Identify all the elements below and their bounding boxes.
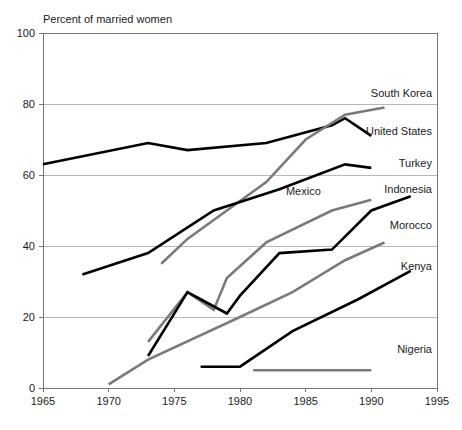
y-tick-label-40: 40 [23, 240, 35, 252]
x-tick-label-1965: 1965 [31, 395, 55, 407]
y-tick-label-80: 80 [23, 98, 35, 110]
series-line-united-states [43, 118, 371, 164]
x-tick-label-1970: 1970 [96, 395, 120, 407]
series-line-mexico [148, 200, 371, 342]
series-label-turkey: Turkey [399, 157, 433, 169]
x-tick-label-1975: 1975 [162, 395, 186, 407]
y-tick-label-20: 20 [23, 311, 35, 323]
x-tick-label-1985: 1985 [293, 395, 317, 407]
gridlines [43, 33, 437, 317]
plot-frame [43, 33, 437, 388]
chart-container: Percent of married women 020406080100 19… [0, 0, 462, 430]
series-label-mexico: Mexico [286, 185, 321, 197]
chart-title: Percent of married women [43, 13, 172, 25]
line-chart: Percent of married women 020406080100 19… [0, 0, 462, 430]
x-tick-label-1980: 1980 [228, 395, 252, 407]
series-line-indonesia [148, 196, 411, 356]
series-label-nigeria: Nigeria [397, 343, 433, 355]
series-label-south-korea: South Korea [371, 87, 433, 99]
y-axis-ticks: 020406080100 [17, 27, 43, 394]
y-tick-label-100: 100 [17, 27, 35, 39]
x-axis-ticks: 1965197019751980198519901995 [31, 388, 449, 407]
y-tick-label-60: 60 [23, 169, 35, 181]
series-line-turkey [82, 164, 371, 274]
series-label-indonesia: Indonesia [384, 183, 433, 195]
x-tick-label-1995: 1995 [425, 395, 449, 407]
series-label-kenya: Kenya [401, 260, 433, 272]
y-tick-label-0: 0 [29, 382, 35, 394]
series-label-united-states: United States [366, 125, 433, 137]
series-label-morocco: Morocco [390, 219, 432, 231]
x-tick-label-1990: 1990 [359, 395, 383, 407]
